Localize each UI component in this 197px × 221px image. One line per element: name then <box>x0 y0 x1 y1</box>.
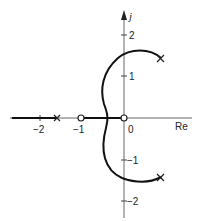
pole-icon <box>157 55 164 62</box>
y-tick-label: 2 <box>129 30 135 41</box>
y-tick-label: −2 <box>127 196 139 207</box>
zero-icon <box>121 115 127 121</box>
real-axis-label: Re <box>175 121 188 132</box>
root-locus-diagram: −2 −1 0 Re j 2 1 −1 −2 <box>0 0 197 221</box>
imag-axis-arrow-icon <box>121 10 127 20</box>
x-tick-label: −2 <box>33 124 45 135</box>
imag-axis-label: j <box>127 10 132 22</box>
zero-icon <box>78 115 84 121</box>
y-tick-label: −1 <box>127 155 139 166</box>
x-tick-label: −1 <box>73 124 85 135</box>
y-tick-label: 1 <box>129 71 135 82</box>
x-tick-label: 0 <box>128 124 134 135</box>
